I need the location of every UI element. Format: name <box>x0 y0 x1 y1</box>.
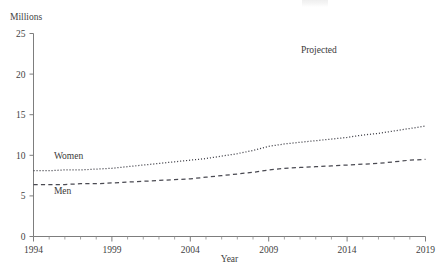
series-label-men: Men <box>54 186 72 196</box>
data-series <box>34 126 426 184</box>
y-axis-title: Millions <box>10 12 43 22</box>
series-line-men <box>34 159 426 184</box>
y-tick-label: 0 <box>21 232 26 242</box>
x-tick-label: 2009 <box>259 245 278 255</box>
x-axis: 199419992004200920142019 <box>24 237 435 255</box>
chart-container: 0510152025 199419992004200920142019 Mill… <box>0 0 444 273</box>
x-tick-label: 2019 <box>416 245 435 255</box>
y-axis: 0510152025 <box>16 29 34 242</box>
x-axis-title: Year <box>221 254 239 264</box>
x-tick-label: 1999 <box>102 245 121 255</box>
x-tick-label: 2004 <box>181 245 200 255</box>
series-label-women: Women <box>54 151 84 161</box>
x-tick-label: 1994 <box>24 245 43 255</box>
y-tick-label: 5 <box>21 191 26 201</box>
cropped-title-artifact <box>302 0 328 7</box>
y-tick-label: 25 <box>16 29 26 39</box>
line-chart: 0510152025 199419992004200920142019 Mill… <box>0 0 444 273</box>
y-tick-label: 15 <box>16 110 26 120</box>
y-tick-label: 10 <box>16 151 26 161</box>
y-tick-label: 20 <box>16 70 26 80</box>
x-tick-label: 2014 <box>338 245 357 255</box>
projected-annotation: Projected <box>301 45 337 55</box>
chart-labels: MillionsYearWomenMenProjected <box>10 12 337 264</box>
